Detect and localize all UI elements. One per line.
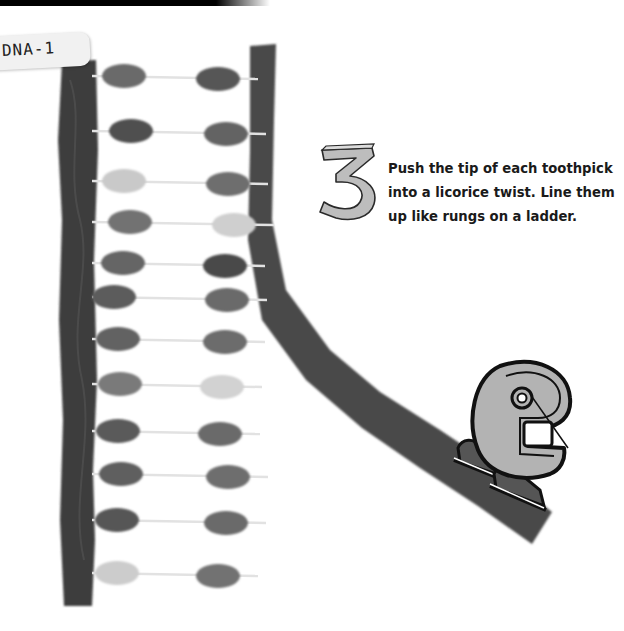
jellybean-right [196,564,240,588]
jellybean-left [109,119,153,143]
jellybean-right [204,511,248,535]
dna-label-tape: DNA-1 [0,32,91,71]
instruction-line-1: Push the tip of each toothpick [388,157,624,181]
jellybean-right [205,288,249,312]
jellybean-left [98,372,142,396]
instruction-text: Push the tip of each toothpick into a li… [388,157,624,229]
jellybean-left [96,419,140,443]
instruction-line-2: into a licorice twist. Line them [388,181,624,205]
jellybean-right [203,254,247,278]
jellybean-left [96,327,140,351]
jellybean-right [206,172,250,196]
jellybean-left [95,561,139,585]
instruction-line-3: up like rungs on a ladder. [388,205,624,229]
jellybean-left [102,64,146,88]
jellybean-left [101,251,145,275]
letter-e-skater-mascot-icon [440,350,600,520]
dna-label-text: DNA-1 [1,38,55,60]
jellybean-left [102,169,146,193]
jellybean-right [212,213,256,237]
jellybean-left [92,285,136,309]
dna-model-photo [0,0,624,631]
instruction-step: 3 Push the tip of each toothpick into a … [314,142,624,242]
jellybean-right [198,422,242,446]
jellybean-right [204,122,248,146]
jellybean-right [196,67,240,91]
jellybean-right [206,465,250,489]
jellybean-right [203,330,247,354]
step-number-3-icon: 3 [314,142,380,222]
toothpick-rungs [92,64,274,588]
jellybean-left [108,210,152,234]
jellybean-left [99,462,143,486]
jellybean-right [200,375,244,399]
jellybean-left [95,508,139,532]
